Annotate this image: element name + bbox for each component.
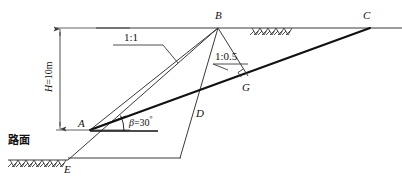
angle-value: =30 [134, 117, 150, 128]
slope-ratio-upper-label: 1:1 [124, 32, 138, 43]
ground-hatch-road [8, 160, 66, 167]
slope-face-B-bottom [180, 28, 218, 158]
point-label-B: B [215, 10, 222, 21]
slope-face-EB [68, 28, 218, 160]
point-label-E: E [64, 164, 71, 175]
slope-diagram-svg [0, 0, 402, 183]
height-value: =10m [43, 61, 54, 84]
height-symbol: H [43, 85, 54, 92]
road-surface-label: 路面 [8, 135, 30, 146]
point-label-C: C [363, 10, 370, 21]
angle-beta-label: β=30º [129, 116, 152, 128]
leader-ratio-upper [113, 45, 178, 63]
point-label-G: G [242, 82, 250, 93]
point-label-A: A [78, 118, 85, 129]
slope-ratio-lower-label: 1:0.5 [215, 51, 237, 62]
ground-hatch-top [250, 28, 292, 35]
degree-symbol: º [150, 115, 152, 124]
diagram-canvas: A B C D E G 1:1 1:0.5 β=30º H=10m 路面 [0, 0, 402, 183]
point-label-D: D [196, 108, 204, 119]
height-dimension-label: H=10m [44, 61, 54, 92]
failure-plane-AC [90, 28, 370, 130]
